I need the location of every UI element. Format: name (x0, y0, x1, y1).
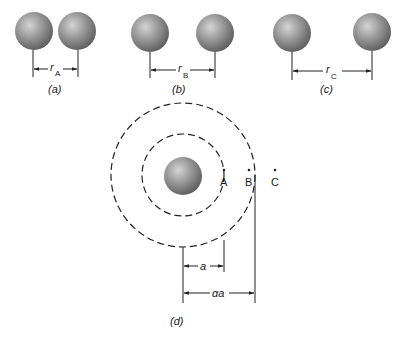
panel-d: A B C a αa (d) (111, 103, 279, 327)
caption-c: (c) (320, 83, 333, 95)
atom-separation-diagram: r A (a) r B (b) r C (c) A B C (0, 0, 409, 342)
atom-sphere (353, 13, 391, 51)
inner-radius-label: a (200, 260, 206, 272)
atom-sphere (58, 12, 96, 50)
panel-a: r A (a) (15, 12, 96, 95)
point-b-dot (248, 169, 251, 172)
caption-b: (b) (172, 83, 186, 95)
point-b-label: B (245, 176, 252, 188)
panel-b: r B (b) (131, 14, 234, 95)
caption-d: (d) (170, 315, 184, 327)
atom-sphere (131, 14, 169, 52)
separation-subscript-c: C (331, 72, 337, 81)
panel-c: r C (c) (273, 13, 391, 95)
outer-radius-label: αa (212, 287, 224, 299)
point-a-dot (223, 169, 226, 172)
atom-sphere (273, 14, 311, 52)
point-c-dot (274, 169, 277, 172)
separation-subscript-a: A (55, 69, 61, 78)
central-atom-sphere (164, 157, 202, 195)
atom-sphere (15, 12, 53, 50)
atom-sphere (196, 14, 234, 52)
separation-subscript-b: B (183, 71, 188, 80)
point-a-label: A (220, 176, 228, 188)
caption-a: (a) (48, 83, 62, 95)
point-c-label: C (271, 176, 279, 188)
